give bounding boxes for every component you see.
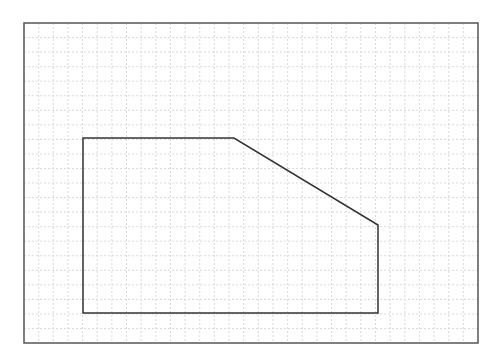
grid-diagram	[0, 0, 504, 362]
background	[0, 0, 504, 362]
